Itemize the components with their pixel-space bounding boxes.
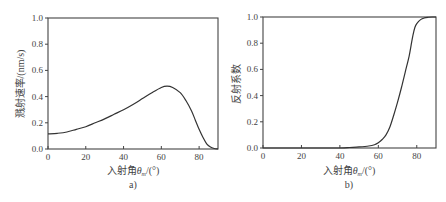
axes-frame bbox=[263, 17, 436, 148]
data-series-line bbox=[48, 86, 218, 149]
x-tick-label: 60 bbox=[374, 151, 384, 161]
y-tick-label: 0.0 bbox=[32, 144, 44, 154]
x-tick-label: 20 bbox=[81, 152, 91, 162]
x-tick-label: 0 bbox=[46, 152, 51, 162]
y-tick-label: 0.4 bbox=[247, 91, 259, 101]
sputter-rate-chart: 0204060800.00.20.40.60.81.0 溅射速率/(nm/s) … bbox=[0, 0, 223, 202]
x-tick-label: 40 bbox=[335, 151, 345, 161]
y-tick-label: 0.0 bbox=[247, 143, 259, 153]
y-axis-label: 反射系数 bbox=[230, 64, 242, 104]
x-tick-label: 20 bbox=[297, 151, 307, 161]
axes-frame bbox=[48, 18, 218, 149]
y-axis-label: 溅射速率/(nm/s) bbox=[14, 50, 27, 119]
y-tick-label: 1.0 bbox=[247, 12, 259, 22]
x-tick-label: 80 bbox=[195, 152, 205, 162]
y-tick-label: 0.6 bbox=[247, 64, 259, 74]
y-tick-label: 0.2 bbox=[247, 117, 258, 127]
x-axis-label: 入射角θm/(°) bbox=[107, 165, 160, 177]
x-tick-label: 0 bbox=[261, 151, 266, 161]
x-tick-label: 60 bbox=[157, 152, 167, 162]
data-series-line bbox=[263, 17, 436, 148]
y-tick-label: 0.8 bbox=[32, 39, 44, 49]
y-tick-label: 1.0 bbox=[32, 13, 44, 23]
plot-area: 0204060800.00.20.40.60.81.0 bbox=[32, 13, 218, 162]
reflection-coefficient-chart: 0204060800.00.20.40.60.81.0 反射系数 入射角θm/(… bbox=[223, 0, 446, 202]
x-axis-label: 入射角θm/(°) bbox=[323, 165, 376, 177]
y-tick-label: 0.4 bbox=[32, 92, 44, 102]
caption-b: b) bbox=[345, 179, 353, 191]
x-tick-label: 40 bbox=[119, 152, 129, 162]
caption-a: a) bbox=[129, 179, 137, 191]
y-tick-label: 0.2 bbox=[32, 118, 43, 128]
y-tick-label: 0.6 bbox=[32, 65, 44, 75]
plot-area: 0204060800.00.20.40.60.81.0 bbox=[247, 12, 436, 161]
x-tick-label: 80 bbox=[412, 151, 422, 161]
chart-panel-b: 0204060800.00.20.40.60.81.0 反射系数 入射角θm/(… bbox=[223, 0, 446, 202]
chart-panel-a: 0204060800.00.20.40.60.81.0 溅射速率/(nm/s) … bbox=[0, 0, 223, 202]
y-tick-label: 0.8 bbox=[247, 38, 259, 48]
